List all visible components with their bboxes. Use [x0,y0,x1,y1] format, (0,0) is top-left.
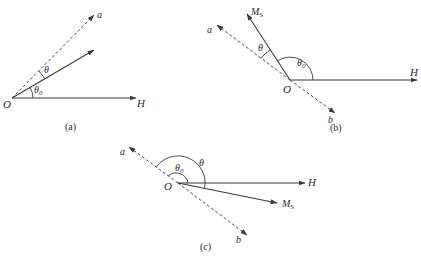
label-c-magnetization: MS [281,198,294,211]
label-c-easy-axis-a: a [120,146,125,157]
label-c-theta: θ [199,157,204,168]
caption-c: (c) [200,241,211,253]
label-a-easy-axis: a [97,9,102,20]
label-c-origin: O [164,180,172,192]
panel-b: a b MS H O θ θ0 (b) [207,6,419,134]
easy-axis-b-arrow [290,80,335,113]
label-b-easy-axis-a: a [207,24,212,35]
panel-a: a H O θ θ0 (a) [3,9,146,133]
magnetization-ms-arrow [178,183,277,203]
magnetization-ms-arrow [247,14,290,80]
panel-c: a b MS H O θ0 θ (c) [120,146,317,253]
label-c-field: H [307,176,317,188]
label-a-theta: θ [44,64,49,75]
magnetization-angle-diagram: a H O θ θ0 (a) a b MS H O θ θ0 (b) [0,0,421,258]
label-a-theta0: θ0 [34,84,43,97]
label-b-theta0: θ0 [297,57,306,70]
label-b-magnetization: MS [250,6,263,19]
easy-axis-b-arrow [178,183,247,235]
label-b-theta: θ [258,42,263,53]
caption-a: (a) [65,121,76,133]
theta0-arc [30,87,33,98]
label-b-origin: O [283,83,291,95]
easy-axis-a-arrow [129,147,178,183]
label-a-origin: O [3,98,11,110]
caption-b: (b) [330,122,342,134]
label-c-easy-axis-b: b [236,234,241,245]
label-a-field: H [136,97,146,109]
easy-axis-a-arrow [217,25,290,80]
label-b-field: H [409,66,419,78]
easy-axis-a-arrow [12,15,94,98]
